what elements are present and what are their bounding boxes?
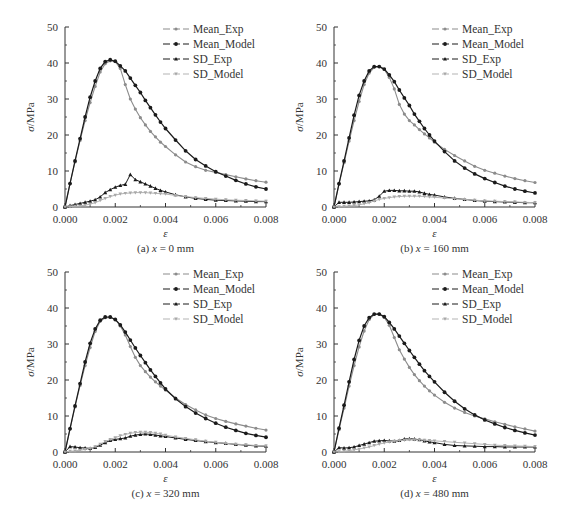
y-tick-label: 30	[47, 338, 59, 350]
legend-item: Mean_Exp	[163, 268, 244, 281]
panel-caption: (b) x = 160 mm	[400, 242, 469, 255]
legend: Mean_ExpMean_ModelSD_ExpSD_Model	[163, 268, 255, 325]
legend-item: SD_Exp	[432, 53, 501, 66]
y-axis-label: σ/MPa	[24, 347, 36, 376]
legend-item: SD_Model	[432, 313, 512, 325]
y-tick-label: 0	[53, 446, 59, 458]
legend-item: SD_Model	[432, 68, 512, 80]
legend-item: Mean_Model	[163, 283, 255, 295]
legend-item: SD_Exp	[163, 298, 232, 311]
x-tick-label: 0.000	[322, 213, 347, 225]
y-tick-label: 20	[316, 129, 328, 141]
x-tick-label: 0.006	[472, 213, 497, 225]
x-tick-label: 0.002	[103, 213, 128, 225]
series-mean-model	[63, 58, 268, 209]
x-tick-label: 0.000	[53, 213, 78, 225]
panel-caption: (d) x = 480 mm	[400, 487, 469, 500]
legend-label: SD_Exp	[193, 298, 232, 311]
x-axis-label: ε	[432, 472, 437, 484]
panel-caption: (c) x = 320 mm	[132, 487, 200, 500]
y-tick-label: 40	[316, 302, 328, 314]
legend-label: Mean_Model	[462, 38, 524, 50]
y-tick-label: 20	[47, 129, 59, 141]
figure: 010203040500.0000.0020.0040.0060.008εσ/M…	[0, 0, 578, 525]
x-axis-label: ε	[163, 227, 168, 239]
legend: Mean_ExpMean_ModelSD_ExpSD_Model	[432, 23, 524, 80]
x-tick-label: 0.002	[372, 458, 397, 470]
x-tick-label: 0.004	[153, 213, 178, 225]
x-tick-label: 0.000	[53, 458, 78, 470]
y-tick-label: 20	[47, 374, 59, 386]
x-tick-label: 0.008	[523, 213, 548, 225]
legend-item: Mean_Model	[432, 38, 524, 50]
y-tick-label: 10	[47, 165, 59, 177]
y-tick-label: 0	[322, 446, 328, 458]
legend-label: Mean_Exp	[462, 23, 513, 36]
y-tick-label: 50	[316, 21, 328, 33]
legend-label: SD_Model	[193, 68, 243, 80]
panel-d: 010203040500.0000.0020.0040.0060.008εσ/M…	[293, 266, 548, 500]
legend-item: SD_Exp	[432, 298, 501, 311]
y-tick-label: 50	[47, 21, 59, 33]
x-tick-label: 0.006	[203, 213, 228, 225]
y-tick-label: 0	[53, 201, 59, 213]
legend-label: Mean_Exp	[193, 268, 244, 281]
y-tick-label: 10	[316, 410, 328, 422]
x-tick-label: 0.000	[322, 458, 347, 470]
legend-label: SD_Exp	[193, 53, 232, 66]
x-tick-label: 0.008	[254, 458, 279, 470]
y-axis-label: σ/MPa	[293, 347, 305, 376]
legend-item: SD_Exp	[163, 53, 232, 66]
y-tick-label: 0	[322, 201, 328, 213]
legend-item: Mean_Model	[163, 38, 255, 50]
legend-label: Mean_Model	[193, 38, 255, 50]
x-axis-label: ε	[163, 472, 168, 484]
y-axis-label: σ/MPa	[293, 102, 305, 131]
legend: Mean_ExpMean_ModelSD_ExpSD_Model	[432, 268, 524, 325]
x-tick-label: 0.008	[523, 458, 548, 470]
legend-label: Mean_Exp	[193, 23, 244, 36]
y-tick-label: 20	[316, 374, 328, 386]
legend-label: Mean_Exp	[462, 268, 513, 281]
panel-caption: (a) x = 0 mm	[137, 242, 194, 255]
y-tick-label: 40	[316, 57, 328, 69]
legend-label: SD_Exp	[462, 53, 501, 66]
legend-label: SD_Model	[462, 68, 512, 80]
x-tick-label: 0.006	[472, 458, 497, 470]
y-tick-label: 30	[316, 338, 328, 350]
legend-label: SD_Model	[462, 313, 512, 325]
legend-label: SD_Exp	[462, 298, 501, 311]
y-tick-label: 40	[47, 302, 59, 314]
legend-item: Mean_Exp	[163, 23, 244, 36]
series-mean-exp	[63, 316, 267, 454]
series-mean-model	[332, 65, 537, 209]
y-axis-label: σ/MPa	[24, 102, 36, 131]
x-tick-label: 0.006	[203, 458, 228, 470]
y-tick-label: 30	[316, 93, 328, 105]
legend-item: SD_Model	[163, 68, 243, 80]
legend-item: Mean_Exp	[432, 23, 513, 36]
y-tick-label: 10	[47, 410, 59, 422]
x-tick-label: 0.004	[422, 213, 447, 225]
y-tick-label: 10	[316, 165, 328, 177]
y-tick-label: 40	[47, 57, 59, 69]
legend-item: Mean_Model	[432, 283, 524, 295]
legend-label: Mean_Model	[462, 283, 524, 295]
legend-item: SD_Model	[163, 313, 243, 325]
x-tick-label: 0.008	[254, 213, 279, 225]
y-tick-label: 50	[47, 266, 59, 278]
legend-label: Mean_Model	[193, 283, 255, 295]
legend: Mean_ExpMean_ModelSD_ExpSD_Model	[163, 23, 255, 80]
x-tick-label: 0.004	[153, 458, 178, 470]
panel-c: 010203040500.0000.0020.0040.0060.008εσ/M…	[24, 266, 279, 500]
y-tick-label: 30	[47, 93, 59, 105]
legend-label: SD_Model	[193, 313, 243, 325]
x-tick-label: 0.002	[372, 213, 397, 225]
y-tick-label: 50	[316, 266, 328, 278]
x-axis-label: ε	[432, 227, 437, 239]
x-tick-label: 0.002	[103, 458, 128, 470]
legend-item: Mean_Exp	[432, 268, 513, 281]
panel-a: 010203040500.0000.0020.0040.0060.008εσ/M…	[24, 21, 279, 255]
x-tick-label: 0.004	[422, 458, 447, 470]
panel-b: 010203040500.0000.0020.0040.0060.008εσ/M…	[293, 21, 548, 255]
